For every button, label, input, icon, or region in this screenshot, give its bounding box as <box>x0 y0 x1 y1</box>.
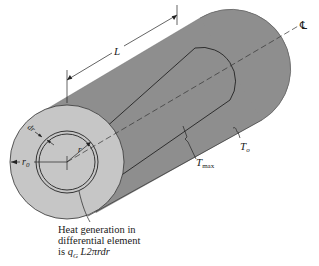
caption-line-1: Heat generation in <box>58 224 198 235</box>
to-label: To <box>240 140 250 154</box>
l-label: L <box>113 45 120 57</box>
caption-line-3: is qG L2πrdr <box>58 246 198 262</box>
tmax-label: Tmax <box>196 156 215 170</box>
r-label: r <box>78 144 82 154</box>
heat-generation-caption: Heat generation in differential element … <box>58 224 198 262</box>
caption-line-2: differential element <box>58 235 198 246</box>
centerline-symbol: ℄ <box>299 19 307 31</box>
